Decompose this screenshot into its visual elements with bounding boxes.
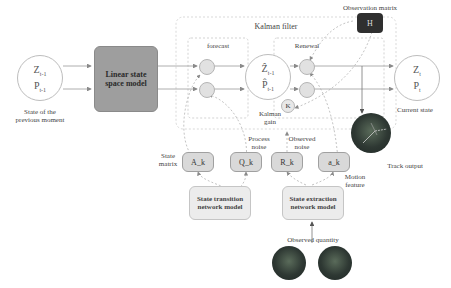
param-q-k: Q_k	[230, 152, 262, 172]
forecast-title: forecast	[198, 42, 238, 50]
observed-image-1	[272, 246, 306, 280]
current-state-p: Pt	[395, 80, 439, 93]
predicted-state-z: Ẑt-1	[246, 63, 290, 76]
renewal-node-covariance	[299, 82, 315, 98]
current-state-z: Zt	[395, 64, 439, 77]
track-output-image	[351, 113, 391, 153]
previous-state-p: Pt-1	[18, 80, 62, 93]
param-a-k-motion: a_k	[318, 152, 350, 172]
predicted-state-p: P̂t-1	[246, 79, 290, 92]
motion-feature-label: Motion feature	[340, 173, 370, 189]
previous-state-caption: State of the previous moment	[10, 108, 70, 124]
state-extraction-network-model: State extractionnetwork model	[282, 186, 344, 220]
state-transition-network-model: State transitionnetwork model	[189, 186, 251, 220]
previous-state-circle: Zt-1 Pt-1	[17, 55, 63, 101]
renewal-title: Renewal	[282, 42, 332, 50]
kalman-gain-label: Kalman gain	[255, 110, 285, 126]
process-noise-label: Process noise	[244, 135, 274, 151]
current-state-circle: Zt Pt	[394, 55, 440, 101]
observed-image-2	[318, 246, 352, 280]
previous-state-z: Zt-1	[18, 64, 62, 77]
param-a-k-matrix: A_k	[182, 152, 214, 172]
renewal-node-state	[299, 59, 315, 75]
kalman-filter-title: Kalman filter	[236, 23, 316, 31]
predicted-state-circle: Ẑt-1 P̂t-1	[245, 54, 291, 100]
observed-noise-label: Observed noise	[285, 135, 319, 151]
kalman-filter-diagram: Zt-1 Pt-1 State of the previous moment L…	[0, 0, 451, 288]
forecast-node-covariance	[199, 82, 215, 98]
track-output-label: Track output	[380, 162, 430, 170]
linear-state-space-model: Linear statespace model	[94, 46, 158, 112]
observation-matrix-label: Observation matrix	[335, 4, 405, 12]
state-matrix-label: State matrix	[155, 152, 181, 168]
observed-quantity-label: Observed quantity	[285, 236, 341, 244]
track-lines-icon	[351, 113, 391, 153]
param-r-k: R_k	[271, 152, 303, 172]
current-state-caption: Current state	[390, 106, 440, 114]
forecast-node-state	[199, 59, 215, 75]
observation-matrix-box: H	[357, 13, 383, 33]
